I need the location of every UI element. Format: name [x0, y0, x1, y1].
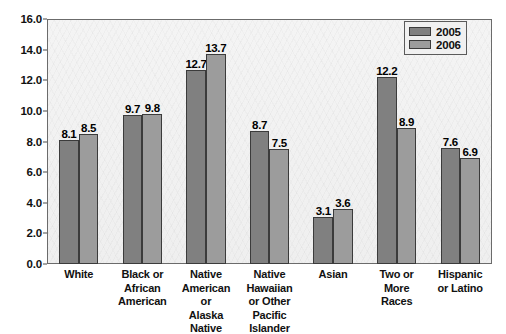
y-axis-tick-label: 16.0 [20, 13, 42, 25]
bar-group: 8.18.5 [59, 19, 98, 264]
bar-value-label: 8.1 [61, 128, 76, 140]
bar-2006[interactable]: 6.9 [460, 158, 480, 264]
bar-value-label: 8.5 [81, 122, 96, 134]
x-axis-category-line: or Latino [428, 282, 492, 296]
bar-group: 3.13.6 [313, 19, 352, 264]
bar-value-label: 7.6 [443, 136, 458, 148]
bar-2006[interactable]: 13.7 [206, 54, 226, 264]
legend: 20052006 [404, 21, 467, 55]
y-axis-tick-label: 8.0 [27, 136, 42, 148]
x-axis-category-line: African [111, 282, 175, 296]
legend-label: 2005 [436, 26, 461, 38]
legend-label: 2006 [436, 39, 461, 51]
legend-item[interactable]: 2005 [409, 25, 461, 38]
bars-layer: 8.18.59.79.812.713.78.77.53.13.612.28.97… [47, 19, 492, 264]
x-axis-category-line: American [174, 282, 238, 296]
bar-2006[interactable]: 3.6 [333, 209, 353, 264]
bar-value-label: 9.7 [125, 103, 140, 115]
bar-2005[interactable]: 9.7 [123, 115, 143, 264]
y-axis-tick-label: 2.0 [27, 227, 42, 239]
bar-2005[interactable]: 12.7 [186, 70, 206, 264]
x-axis-category-line: White [47, 268, 111, 282]
legend-swatch-icon [409, 40, 431, 49]
bar-group: 9.79.8 [123, 19, 162, 264]
x-axis-category-label: NativeHawaiianor OtherPacificIslander [238, 268, 302, 334]
x-axis-category-line: More [365, 282, 429, 296]
y-axis-tick-label: 12.0 [20, 74, 42, 86]
x-axis-category-line: Hispanic [428, 268, 492, 282]
x-axis-category-line: or Other [238, 295, 302, 309]
x-axis-category-line: Two or [365, 268, 429, 282]
bar-2005[interactable]: 3.1 [313, 217, 333, 264]
x-axis-category-label: Two orMoreRaces [365, 268, 429, 309]
legend-swatch-icon [409, 27, 431, 36]
bar-value-label: 13.7 [205, 42, 226, 54]
bar-value-label: 3.1 [316, 205, 331, 217]
bar-2005[interactable]: 7.6 [441, 148, 461, 264]
y-axis: 0.02.04.06.08.010.012.014.016.0 [0, 19, 47, 264]
bar-value-label: 3.6 [335, 197, 350, 209]
x-axis-category-line: Islander [238, 322, 302, 334]
bar-group: 12.713.7 [186, 19, 225, 264]
x-axis-category-line: Pacific [238, 309, 302, 323]
bar-value-label: 6.9 [463, 146, 478, 158]
x-axis-category-line: or [174, 295, 238, 309]
y-axis-tick-label: 14.0 [20, 44, 42, 56]
bar-2006[interactable]: 9.8 [142, 114, 162, 264]
bar-value-label: 12.2 [376, 65, 397, 77]
bar-chart: 0.02.04.06.08.010.012.014.016.0 8.18.59.… [0, 0, 506, 334]
bar-2005[interactable]: 8.1 [59, 140, 79, 264]
y-axis-tick-label: 10.0 [20, 105, 42, 117]
x-axis-category-line: Native [238, 268, 302, 282]
legend-item[interactable]: 2006 [409, 38, 461, 51]
bar-2005[interactable]: 12.2 [377, 77, 397, 264]
bar-2005[interactable]: 8.7 [250, 131, 270, 264]
bar-2006[interactable]: 8.9 [397, 128, 417, 264]
bar-value-label: 8.9 [399, 116, 414, 128]
x-axis-category-label: Asian [301, 268, 365, 282]
bar-group: 7.66.9 [441, 19, 480, 264]
bar-value-label: 9.8 [145, 102, 160, 114]
x-axis-category-label: NativeAmericanorAlaska Native [174, 268, 238, 334]
bar-value-label: 7.5 [272, 137, 287, 149]
x-axis-category-line: Hawaiian [238, 282, 302, 296]
bar-2006[interactable]: 8.5 [79, 134, 99, 264]
bar-value-label: 8.7 [252, 119, 267, 131]
bar-group: 12.28.9 [377, 19, 416, 264]
bar-2006[interactable]: 7.5 [269, 149, 289, 264]
y-axis-tick-label: 0.0 [27, 258, 42, 270]
x-axis-category-line: American [111, 295, 175, 309]
y-axis-tick-label: 4.0 [27, 197, 42, 209]
x-axis-category-line: Races [365, 295, 429, 309]
x-axis-category-line: Black or [111, 268, 175, 282]
y-axis-tick-label: 6.0 [27, 166, 42, 178]
x-axis-category-line: Alaska Native [174, 309, 238, 334]
x-axis-category-line: Native [174, 268, 238, 282]
x-axis-category-label: White [47, 268, 111, 282]
x-axis-category-label: Hispanicor Latino [428, 268, 492, 295]
bar-group: 8.77.5 [250, 19, 289, 264]
bar-value-label: 12.7 [185, 58, 206, 70]
x-axis-category-line: Asian [301, 268, 365, 282]
x-axis-category-label: Black orAfricanAmerican [111, 268, 175, 309]
